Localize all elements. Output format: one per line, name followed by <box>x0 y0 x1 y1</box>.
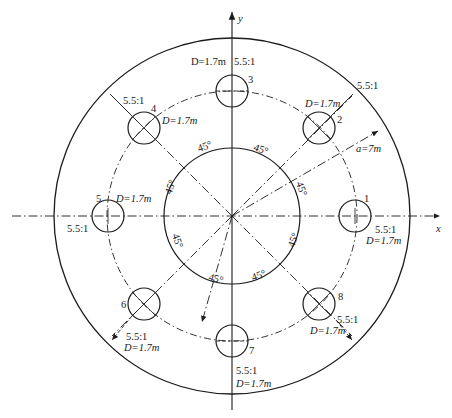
svg-text:5.5:1: 5.5:1 <box>337 314 358 325</box>
svg-text:D=1.7m: D=1.7m <box>123 342 160 353</box>
svg-text:D=1.7m: D=1.7m <box>304 98 341 109</box>
svg-text:2: 2 <box>337 114 342 125</box>
hole-1: 1 5.5:1 D=1.7m <box>339 193 402 246</box>
angle-label: 45° <box>170 232 185 250</box>
svg-text:6: 6 <box>121 299 126 310</box>
svg-text:5.5:1: 5.5:1 <box>236 365 257 376</box>
svg-text:D=1.7m: D=1.7m <box>309 325 346 336</box>
radius-arrow-sw <box>202 216 232 322</box>
svg-text:5.5:1: 5.5:1 <box>126 331 147 342</box>
angle-label: 45° <box>163 178 178 196</box>
radius-label: a=7m <box>356 143 382 154</box>
svg-text:5: 5 <box>96 193 101 204</box>
angle-label: 45° <box>252 142 270 157</box>
angle-label: 45° <box>207 271 224 285</box>
x-axis-label: x <box>435 223 441 234</box>
hole-6: 6 5.5:1 D=1.7m <box>112 288 160 353</box>
svg-text:D=1.7m: D=1.7m <box>365 235 402 246</box>
hole-4: 4 5.5:1 D=1.7m <box>110 94 198 144</box>
diagram-canvas: x y a=7m 1 5.5:1 D=1.7m 2 5.5:1 D=1.7m 3… <box>0 0 452 418</box>
svg-text:7: 7 <box>249 345 254 356</box>
svg-text:8: 8 <box>338 291 343 302</box>
svg-text:5.5:1: 5.5:1 <box>375 224 396 235</box>
angle-label: 45° <box>250 268 268 283</box>
svg-text:4: 4 <box>151 103 157 114</box>
hole-8: 8 5.5:1 D=1.7m <box>303 288 358 340</box>
svg-text:5.5:1: 5.5:1 <box>357 80 378 91</box>
hole-7: 7 5.5:1 D=1.7m <box>216 325 272 389</box>
svg-text:5.5:1: 5.5:1 <box>67 223 88 234</box>
hole-5: 5 5.5:1 D=1.7m <box>67 193 152 234</box>
svg-text:D=1.7m: D=1.7m <box>191 56 226 67</box>
svg-text:D=1.7m: D=1.7m <box>161 115 198 126</box>
svg-text:D=1.7m: D=1.7m <box>235 378 272 389</box>
svg-text:5.5:1: 5.5:1 <box>234 56 255 67</box>
hole-2: 2 5.5:1 D=1.7m <box>303 80 378 144</box>
svg-text:5.5:1: 5.5:1 <box>123 95 144 106</box>
diagonal-centerline-ne <box>232 96 352 216</box>
svg-text:3: 3 <box>248 74 253 85</box>
svg-text:1: 1 <box>364 193 369 204</box>
hole-layout-diagram: x y a=7m 1 5.5:1 D=1.7m 2 5.5:1 D=1.7m 3… <box>0 0 452 418</box>
angle-label: 45° <box>286 231 301 249</box>
hole-3: 3 5.5:1 D=1.7m <box>191 56 255 107</box>
y-axis-label: y <box>237 13 243 24</box>
svg-text:D=1.7m: D=1.7m <box>115 193 152 204</box>
